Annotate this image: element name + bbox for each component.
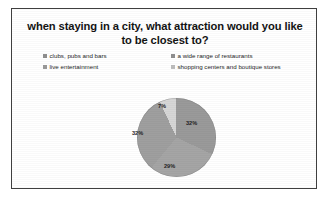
- legend-item-a-wide-range-of-restaurants[interactable]: a wide range of restaurants: [171, 52, 252, 59]
- pie-slice-label: 29%: [164, 163, 175, 169]
- chart-title: when staying in a city, what attraction …: [26, 19, 304, 47]
- chart-legend: clubs, pubs and bars a wide range of res…: [43, 52, 301, 76]
- legend-swatch-icon: [43, 65, 47, 69]
- legend-item-label: shopping centers and boutique stores: [178, 63, 281, 70]
- pie-slice-label: 7%: [158, 103, 166, 109]
- pie-slice-label: 32%: [132, 130, 143, 136]
- pie-slice-label: 32%: [186, 120, 197, 126]
- legend-swatch-icon: [171, 54, 175, 58]
- legend-item-label: live entertainment: [50, 63, 99, 70]
- legend-item-clubs-pubs-and-bars[interactable]: clubs, pubs and bars: [43, 52, 107, 59]
- legend-swatch-icon: [171, 65, 175, 69]
- legend-item-live-entertainment[interactable]: live entertainment: [43, 63, 98, 70]
- legend-item-shopping-centers-and-boutique-stores[interactable]: shopping centers and boutique stores: [171, 63, 281, 70]
- legend-swatch-icon: [43, 54, 47, 58]
- legend-item-label: a wide range of restaurants: [178, 52, 253, 59]
- slide-frame: when staying in a city, what attraction …: [11, 8, 317, 189]
- legend-item-label: clubs, pubs and bars: [50, 52, 107, 59]
- pie-chart-graphic[interactable]: [137, 98, 216, 177]
- pie-chart-area: 32% 29% 32% 7%: [124, 95, 228, 187]
